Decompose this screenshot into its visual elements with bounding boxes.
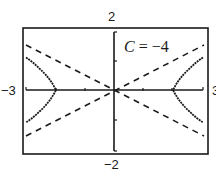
hyperbola-plot: [0, 0, 216, 176]
y-min-label: −2: [104, 158, 119, 171]
constant-annotation: C = −4: [124, 38, 169, 56]
annotation-value: = −4: [135, 38, 169, 55]
y-max-label: 2: [108, 10, 115, 23]
x-min-label: −3: [1, 84, 16, 97]
x-max-label: 3: [212, 84, 216, 97]
annotation-variable: C: [124, 38, 135, 55]
